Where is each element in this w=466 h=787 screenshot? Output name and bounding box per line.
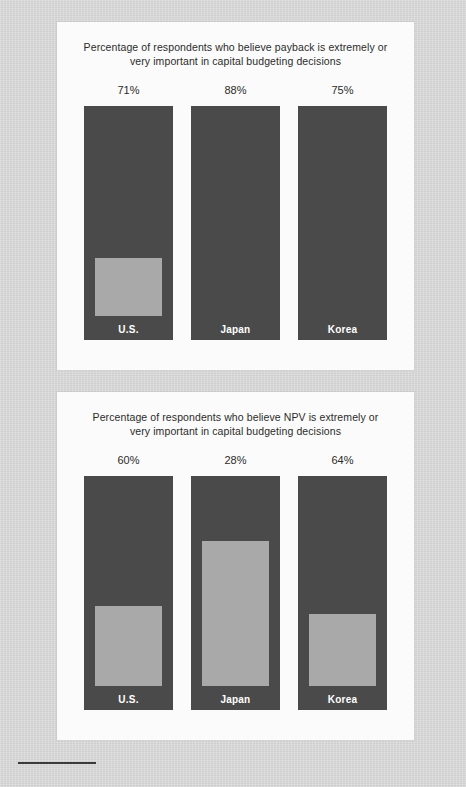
- bar-group-us: 60%U.S.: [84, 454, 172, 724]
- bar-category-label: U.S.: [84, 324, 172, 335]
- plot-area-payback: 71%U.S.88%Japan75%Korea: [75, 84, 396, 354]
- chart-title-payback: Percentage of respondents who believe pa…: [57, 22, 414, 68]
- page-background: Percentage of respondents who believe pa…: [0, 0, 466, 787]
- bar: Korea: [298, 106, 386, 340]
- plot-area-npv: 60%U.S.28%Japan64%Korea: [75, 454, 396, 724]
- bar-category-label: Korea: [298, 324, 386, 335]
- bar-category-label: Korea: [298, 694, 386, 705]
- bar: Japan: [191, 476, 279, 710]
- bar-category-label: Japan: [191, 694, 279, 705]
- bar-value-label: 60%: [84, 454, 172, 466]
- bar-category-label: U.S.: [84, 694, 172, 705]
- bar-group-korea: 64%Korea: [298, 454, 386, 724]
- bar: Japan: [191, 106, 279, 340]
- bar-value-fill: [95, 606, 161, 686]
- bar-group-japan: 88%Japan: [191, 84, 279, 354]
- bar-group-korea: 75%Korea: [298, 84, 386, 354]
- bar-value-label: 64%: [298, 454, 386, 466]
- bar-value-label: 28%: [191, 454, 279, 466]
- bar-value-fill: [309, 614, 375, 686]
- bar: Korea: [298, 476, 386, 710]
- bar: U.S.: [84, 106, 172, 340]
- bar-value-label: 88%: [191, 84, 279, 96]
- bar-value-label: 71%: [84, 84, 172, 96]
- bar-value-fill: [202, 541, 268, 686]
- chart-title-npv: Percentage of respondents who believe NP…: [57, 392, 414, 438]
- chart-panel-npv: Percentage of respondents who believe NP…: [57, 392, 414, 740]
- bar-group-japan: 28%Japan: [191, 454, 279, 724]
- bar-value-label: 75%: [298, 84, 386, 96]
- bar-category-label: Japan: [191, 324, 279, 335]
- footnote-separator-rule: [18, 762, 96, 764]
- bar-value-fill: [95, 258, 161, 316]
- chart-panel-payback: Percentage of respondents who believe pa…: [57, 22, 414, 370]
- bar-group-us: 71%U.S.: [84, 84, 172, 354]
- bar: U.S.: [84, 476, 172, 710]
